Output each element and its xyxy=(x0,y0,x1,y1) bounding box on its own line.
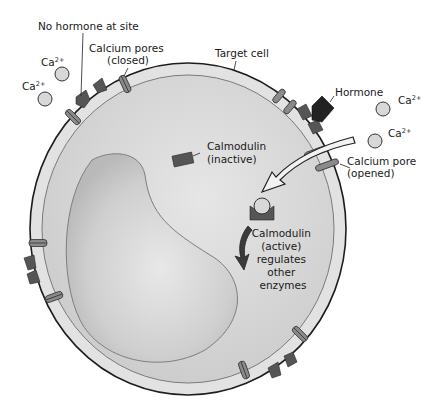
hormone-molecule xyxy=(312,96,334,122)
calcium-ion xyxy=(368,134,382,148)
calcium-ion xyxy=(38,92,52,106)
label-pores-closed: Calcium pores (closed) xyxy=(89,42,167,66)
label-calmodulin-active: Calmodulin (active) regulates other enzy… xyxy=(252,227,315,291)
label-no-hormone: No hormone at site xyxy=(38,20,139,32)
label-ca-2: Ca2+ xyxy=(22,80,45,92)
calcium-ion xyxy=(376,102,390,116)
label-hormone: Hormone xyxy=(335,86,383,98)
label-ca-1: Ca2+ xyxy=(41,56,64,68)
label-ca-4: Ca2+ xyxy=(388,127,411,139)
label-pore-opened: Calcium pore (opened) xyxy=(347,155,420,179)
calcium-ion xyxy=(55,67,69,81)
calcium-ion-bound xyxy=(254,198,270,214)
target-cell-diagram: No hormone at site Calcium pores (closed… xyxy=(0,0,436,408)
label-ca-3: Ca2+ xyxy=(398,94,421,106)
label-target-cell: Target cell xyxy=(214,47,269,59)
